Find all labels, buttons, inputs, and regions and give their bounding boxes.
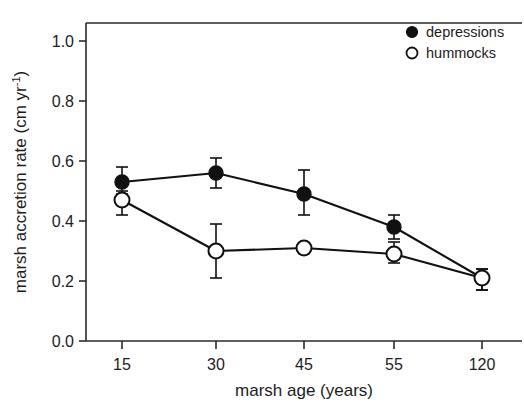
y-axis-title: marsh accretion rate (cm yr-1)	[10, 71, 30, 293]
legend-marker-filled-circle	[407, 27, 418, 38]
legend-marker-open-circle	[407, 48, 418, 59]
y-axis-title-text: marsh accretion rate (cm yr	[11, 86, 30, 293]
marker-filled-circle	[209, 166, 223, 180]
legend-label: hummocks	[426, 45, 496, 61]
marker-filled-circle	[115, 175, 129, 189]
y-tick-label: 0.0	[52, 333, 74, 350]
x-axis-title: marsh age (years)	[235, 381, 373, 400]
marker-open-circle	[115, 193, 130, 208]
accretion-rate-line-chart: 0.00.20.40.60.81.0 15304555120 marsh acc…	[0, 0, 524, 402]
legend-label: depressions	[426, 24, 504, 40]
x-tick-label: 45	[295, 356, 313, 373]
x-tick-label: 15	[113, 356, 131, 373]
figure-panel: 0.00.20.40.60.81.0 15304555120 marsh acc…	[0, 0, 524, 402]
marker-open-circle	[297, 241, 312, 256]
x-axis-ticks	[122, 341, 482, 349]
series-depressions	[115, 158, 489, 290]
marker-open-circle	[387, 247, 402, 262]
x-tick-label: 30	[207, 356, 225, 373]
marker-filled-circle	[297, 187, 311, 201]
data-series-layer	[115, 158, 490, 290]
y-tick-label: 0.2	[52, 273, 74, 290]
chart-legend: depressionshummocks	[407, 24, 505, 61]
x-tick-label: 120	[469, 356, 496, 373]
marker-open-circle	[209, 244, 224, 259]
series-line	[122, 200, 482, 278]
x-tick-label: 55	[385, 356, 403, 373]
svg-text:marsh accretion rate (cm yr-1): marsh accretion rate (cm yr-1)	[10, 71, 30, 293]
y-axis-ticks	[79, 41, 86, 341]
y-tick-label: 1.0	[52, 33, 74, 50]
y-tick-label: 0.6	[52, 153, 74, 170]
marker-open-circle	[475, 271, 490, 286]
marker-filled-circle	[387, 220, 401, 234]
x-axis-tick-labels: 15304555120	[113, 356, 495, 373]
y-tick-label: 0.8	[52, 93, 74, 110]
y-tick-label: 0.4	[52, 213, 74, 230]
y-axis-title-exponent: -1	[10, 77, 22, 87]
y-axis-tick-labels: 0.00.20.40.60.81.0	[52, 33, 74, 350]
y-axis-title-tail: )	[11, 71, 30, 77]
series-hummocks	[115, 191, 490, 290]
